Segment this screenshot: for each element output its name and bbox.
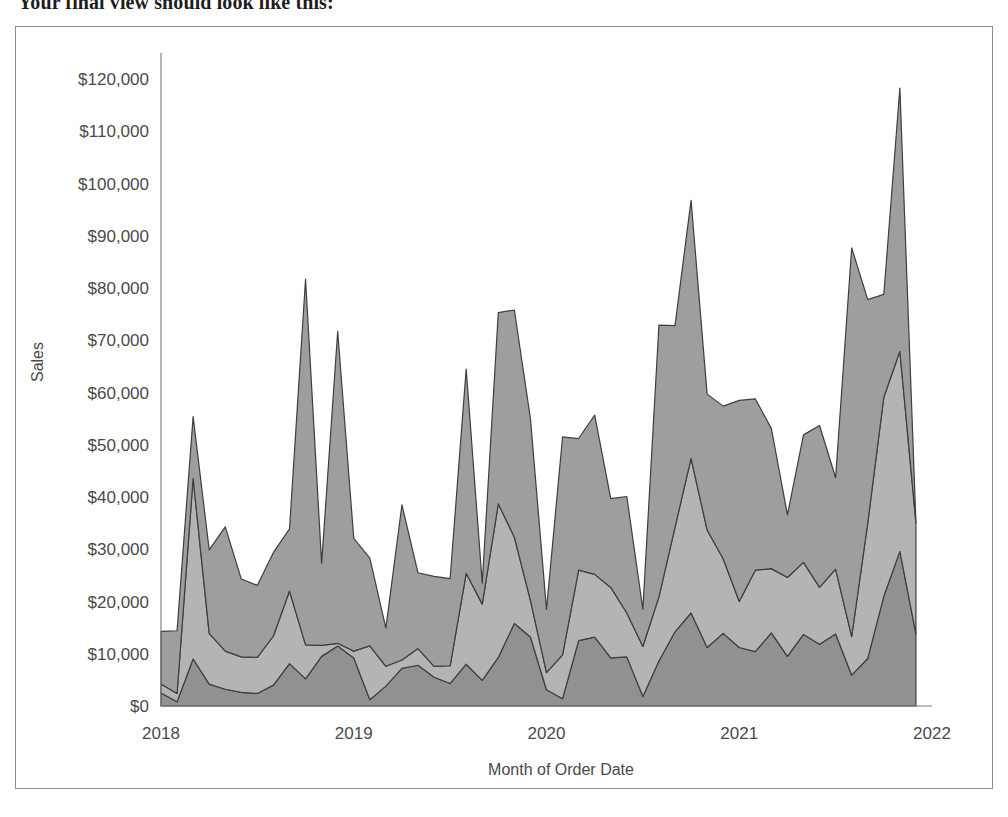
- x-tick-label: 2018: [142, 724, 180, 743]
- y-tick-label: $50,000: [88, 436, 149, 455]
- x-axis-title: Month of Order Date: [488, 761, 634, 778]
- x-tick-label: 2020: [528, 724, 566, 743]
- y-tick-label: $30,000: [88, 540, 149, 559]
- y-tick-label: $0: [130, 697, 149, 716]
- y-tick-label: $80,000: [88, 279, 149, 298]
- x-tick-label: 2022: [913, 724, 951, 743]
- y-tick-label: $40,000: [88, 488, 149, 507]
- y-tick-label: $100,000: [78, 175, 149, 194]
- y-tick-label: $70,000: [88, 331, 149, 350]
- y-tick-label: $20,000: [88, 593, 149, 612]
- document-heading: Your final view should look like this:: [18, 0, 334, 14]
- x-tick-label: 2021: [720, 724, 758, 743]
- y-tick-label: $110,000: [79, 122, 149, 141]
- y-tick-label: $60,000: [88, 384, 149, 403]
- y-axis-title: Sales: [29, 342, 46, 382]
- x-axis-tick-labels: 20182019202020212022: [142, 724, 951, 743]
- x-tick-label: 2019: [335, 724, 373, 743]
- y-axis-tick-labels: $0$10,000$20,000$30,000$40,000$50,000$60…: [78, 70, 149, 716]
- y-tick-label: $120,000: [78, 70, 149, 89]
- y-tick-label: $10,000: [88, 645, 149, 664]
- y-tick-label: $90,000: [88, 227, 149, 246]
- visualization-frame: $0$10,000$20,000$30,000$40,000$50,000$60…: [15, 26, 993, 789]
- stacked-area-chart: $0$10,000$20,000$30,000$40,000$50,000$60…: [16, 27, 992, 788]
- chart-areas: [161, 88, 916, 706]
